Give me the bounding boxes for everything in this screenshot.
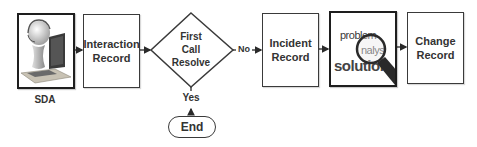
flowchart-canvas: SDA Interaction Record First Call Resolv… (0, 0, 477, 147)
interaction-record-line2: Record (83, 51, 139, 65)
analysis-image-box: problem nalys solution (329, 11, 397, 87)
incident-record-line1: Incident (269, 36, 311, 50)
interaction-record-node: Interaction Record (83, 14, 140, 88)
change-record-line2: Record (415, 48, 455, 62)
decision-line3: Resolve (161, 56, 221, 69)
magnifying-glass-icon (331, 13, 397, 87)
incident-record-node: Incident Record (262, 13, 319, 87)
end-terminal: End (168, 116, 216, 138)
first-call-resolve-label: First Call Resolve (161, 30, 221, 69)
interaction-record-line1: Interaction (83, 37, 139, 51)
decision-line1: First (161, 30, 221, 43)
decision-line2: Call (161, 43, 221, 56)
change-record-node: Change Record (407, 12, 464, 84)
change-record-line1: Change (415, 34, 455, 48)
incident-record-line2: Record (269, 50, 311, 64)
sda-label: SDA (30, 94, 60, 105)
edge-label-yes: Yes (178, 92, 204, 103)
edge-label-no: No (238, 44, 250, 54)
agent-at-computer-icon (19, 15, 73, 87)
sda-image-box (17, 13, 75, 89)
